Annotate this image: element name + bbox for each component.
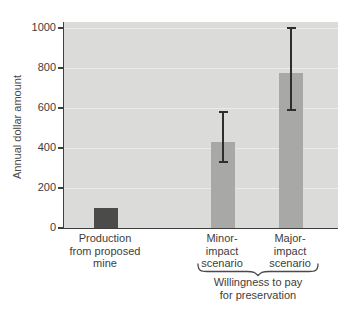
x-label-1-line-3: mine: [57, 257, 153, 270]
error-bar-line-3: [290, 28, 292, 110]
group-label-line-2: for preservation: [187, 289, 329, 302]
gridline-1000: [64, 28, 338, 29]
y-tick-label-200: 200: [16, 181, 56, 194]
error-bar-cap-low-3: [287, 109, 296, 111]
y-tick-label-1000: 1000: [16, 21, 56, 34]
y-tick-400: [58, 147, 63, 149]
x-label-3-line-2: impact: [242, 245, 338, 258]
y-tick-0: [58, 227, 63, 229]
y-tick-600: [58, 107, 63, 109]
y-tick-800: [58, 67, 63, 69]
y-tick-label-400: 400: [16, 141, 56, 154]
bar-chart-figure: Annual dollar amount 02004006008001000 P…: [0, 0, 352, 311]
x-label-3-line-1: Major-: [242, 232, 338, 245]
y-tick-1000: [58, 27, 63, 29]
y-tick-200: [58, 187, 63, 189]
bar-1: [94, 208, 118, 228]
x-label-1: Productionfrom proposedmine: [57, 232, 153, 270]
error-bar-cap-low-2: [219, 161, 228, 163]
x-label-1-line-1: Production: [57, 232, 153, 245]
y-tick-label-800: 800: [16, 61, 56, 74]
error-bar-cap-high-3: [287, 27, 296, 29]
error-bar-line-2: [222, 112, 224, 162]
error-bar-cap-high-2: [219, 111, 228, 113]
group-annotation-label: Willingness to pay for preservation: [187, 276, 329, 302]
y-tick-label-600: 600: [16, 101, 56, 114]
x-label-1-line-2: from proposed: [57, 245, 153, 258]
group-label-line-1: Willingness to pay: [187, 276, 329, 289]
y-tick-label-0: 0: [16, 221, 56, 234]
gridline-800: [64, 68, 338, 69]
plot-area: [63, 22, 338, 229]
y-axis-label: Annual dollar amount: [11, 75, 23, 179]
